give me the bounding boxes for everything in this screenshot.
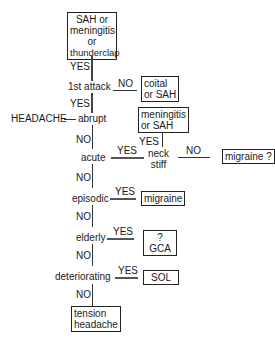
label-no: NO	[76, 289, 91, 300]
node-elderly: elderly	[76, 232, 105, 243]
label-yes: YES	[117, 145, 137, 156]
connector-line	[91, 56, 93, 81]
connector-line	[92, 164, 93, 188]
connector-line	[92, 125, 93, 149]
node-abrupt: abrupt	[78, 113, 106, 124]
connector-line	[92, 244, 93, 266]
label-no: NO	[76, 250, 91, 261]
node-sol: SOL	[143, 270, 179, 285]
text-line: headache	[74, 319, 118, 330]
node-neck-stiff: neck stiff	[148, 148, 169, 170]
text-line: coital	[144, 78, 176, 89]
node-tension-headache: tension headache	[71, 306, 121, 332]
text-line: or SAH	[144, 89, 176, 100]
node-episodic: episodic	[72, 193, 109, 204]
connector-line	[92, 284, 93, 306]
label-no: NO	[186, 145, 201, 156]
connector-line	[64, 119, 76, 120]
text-line: stiff	[148, 159, 169, 170]
label-yes: YES	[70, 61, 90, 72]
label-no: NO	[76, 134, 91, 145]
label-no: NO	[76, 211, 91, 222]
text-line: SAH or	[70, 14, 114, 25]
connector-line	[107, 238, 134, 240]
node-sah-meningitis-thunderclap: SAH or meningitis or thunderclap	[67, 12, 117, 60]
text-line: meningitis	[70, 25, 114, 36]
node-gca: ? GCA	[143, 230, 177, 256]
label-yes: YES	[139, 136, 159, 147]
text-line: or	[70, 36, 114, 47]
node-headache: HEADACHE	[11, 113, 67, 124]
label-no: NO	[76, 172, 91, 183]
text-line: meningitis	[141, 109, 186, 120]
text-line: neck	[148, 148, 169, 159]
connector-line	[91, 93, 93, 113]
node-deteriorating: deteriorating	[55, 271, 111, 282]
node-migraine-question: migraine ?	[222, 149, 275, 164]
node-meningitis-or-sah: meningitis or SAH	[138, 107, 189, 133]
connector-line	[178, 157, 210, 158]
connector-line	[115, 277, 138, 279]
connector-line	[111, 157, 144, 159]
connector-line	[110, 198, 136, 200]
connector-line	[162, 133, 163, 147]
connector-line	[113, 90, 137, 91]
text-line: or SAH	[141, 120, 186, 131]
label-yes: YES	[115, 186, 135, 197]
connector-line	[92, 205, 93, 227]
node-coital-or-sah: coital or SAH	[141, 76, 179, 102]
label-yes: YES	[118, 265, 138, 276]
node-migraine: migraine	[141, 191, 185, 206]
node-first-attack: 1st attack	[68, 81, 111, 92]
node-acute: acute	[81, 152, 105, 163]
text-line: tension	[74, 308, 118, 319]
label-yes: YES	[70, 98, 90, 109]
label-yes: YES	[113, 226, 133, 237]
label-no: NO	[118, 78, 133, 89]
